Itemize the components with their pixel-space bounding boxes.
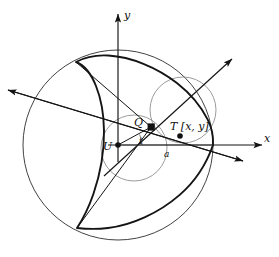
- axis-label-y: y: [123, 9, 131, 22]
- angle-label-t: t: [139, 136, 143, 146]
- deltoid-curve: [76, 55, 213, 228]
- point-label-U: U: [103, 140, 113, 153]
- figure-canvas: y x U Q T [x, y] t a: [0, 0, 279, 257]
- radius-UQ: [118, 127, 151, 145]
- point-Q-marker: [148, 123, 155, 130]
- point-U-marker: [115, 142, 121, 148]
- point-label-T: T [x, y]: [170, 120, 210, 133]
- deltoid-diagram: y x U Q T [x, y] t a: [0, 0, 279, 257]
- segment-label-a: a: [164, 149, 169, 159]
- point-label-Q: Q: [134, 116, 143, 129]
- axis-label-x: x: [264, 132, 271, 145]
- point-T-marker: [177, 133, 183, 139]
